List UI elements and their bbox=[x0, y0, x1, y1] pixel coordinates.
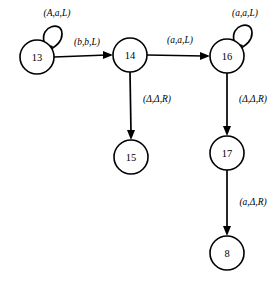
state-diagram-canvas: (b,b,L) (a,a,L) (Δ,Δ,R) (Δ,Δ,R) (a,Δ,R) bbox=[0, 0, 278, 284]
edge-16-to-17: (Δ,Δ,R) bbox=[223, 73, 267, 136]
state-node-13[interactable]: 13 bbox=[20, 40, 54, 74]
edge-13-to-14: (b,b,L) bbox=[54, 37, 113, 59]
state-node-13-label: 13 bbox=[32, 52, 43, 63]
state-node-8-label: 8 bbox=[224, 248, 229, 259]
edge-13-to-14-label: (b,b,L) bbox=[74, 37, 100, 48]
edge-14-to-15-label: (Δ,Δ,R) bbox=[143, 94, 171, 105]
edge-13-to-14-arrowhead bbox=[103, 51, 113, 59]
edge-16-to-17-arrowhead bbox=[223, 126, 231, 136]
edge-17-to-8-arrowhead bbox=[223, 226, 231, 236]
state-node-17-label: 17 bbox=[222, 148, 233, 159]
edge-14-to-15-arrowhead bbox=[127, 130, 135, 140]
state-node-15-label: 15 bbox=[126, 152, 137, 163]
edge-14-to-16: (a,a,L) bbox=[147, 35, 210, 60]
state-node-15[interactable]: 15 bbox=[114, 140, 148, 174]
edge-13-self-loop-label: (A,a,L) bbox=[44, 8, 71, 19]
state-node-14[interactable]: 14 bbox=[113, 38, 147, 72]
state-node-8[interactable]: 8 bbox=[210, 236, 244, 270]
edge-14-to-16-arrowhead bbox=[200, 52, 210, 60]
edge-14-to-16-label: (a,a,L) bbox=[167, 35, 193, 46]
edge-14-to-16-line bbox=[147, 55, 204, 56]
state-node-17[interactable]: 17 bbox=[210, 136, 244, 170]
edge-13-to-14-line bbox=[54, 55, 107, 57]
state-node-14-label: 14 bbox=[125, 50, 136, 61]
edge-14-to-15-line bbox=[130, 72, 131, 133]
edge-17-to-8: (a,Δ,R) bbox=[223, 170, 267, 236]
state-diagram: (b,b,L) (a,a,L) (Δ,Δ,R) (Δ,Δ,R) (a,Δ,R) bbox=[0, 0, 278, 284]
state-node-16-label: 16 bbox=[222, 51, 233, 62]
edge-17-to-8-label: (a,Δ,R) bbox=[239, 197, 266, 208]
edge-16-self-loop-label: (a,a,L) bbox=[232, 8, 258, 19]
edge-16-to-17-label: (Δ,Δ,R) bbox=[239, 94, 267, 105]
state-node-16[interactable]: 16 bbox=[210, 39, 244, 73]
edge-14-to-15: (Δ,Δ,R) bbox=[127, 72, 171, 140]
